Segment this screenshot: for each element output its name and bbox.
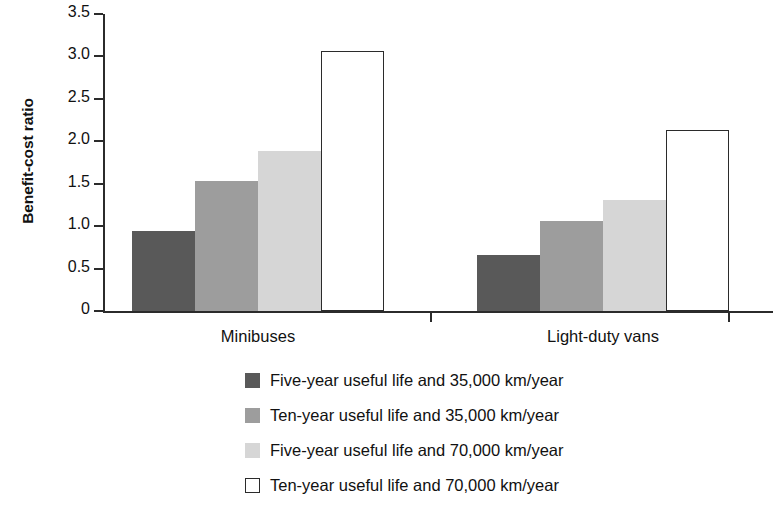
x-axis-category-label: Light-duty vans	[483, 327, 723, 346]
y-axis-tick-mark	[94, 13, 103, 15]
y-axis-tick-mark	[94, 140, 103, 142]
legend-swatch-icon	[245, 443, 260, 458]
bar	[195, 181, 258, 311]
legend-item-label: Ten-year useful life and 70,000 km/year	[270, 477, 559, 494]
chart-legend: Five-year useful life and 35,000 km/year…	[0, 363, 773, 503]
y-axis-tick-mark	[94, 268, 103, 270]
legend-item: Ten-year useful life and 70,000 km/year	[0, 468, 773, 503]
x-axis-tick-mark	[728, 311, 730, 322]
bar	[540, 221, 603, 311]
bar	[321, 51, 384, 312]
bar	[666, 130, 729, 311]
plot-area: 3.53.02.52.01.51.00.50	[103, 14, 773, 312]
legend-item-label: Five-year useful life and 70,000 km/year	[270, 442, 563, 459]
legend-item-label: Five-year useful life and 35,000 km/year	[270, 372, 563, 389]
legend-item: Ten-year useful life and 35,000 km/year	[0, 398, 773, 433]
bar	[132, 231, 195, 311]
y-axis-tick-mark	[94, 225, 103, 227]
legend-swatch-icon	[245, 373, 260, 388]
bar	[258, 151, 321, 311]
x-axis-tick-mark	[430, 311, 432, 322]
y-axis-tick-label: 3.5	[50, 3, 90, 21]
y-axis-tick-label: 1.0	[50, 215, 90, 233]
y-axis-tick-label: 0	[50, 300, 90, 318]
y-axis-tick-mark	[94, 183, 103, 185]
y-axis-tick-label: 2.0	[50, 130, 90, 148]
legend-swatch-icon	[245, 408, 260, 423]
y-axis-tick-mark	[94, 55, 103, 57]
y-axis-tick-label: 0.5	[50, 258, 90, 276]
y-axis-title: Benefit-cost ratio	[19, 51, 37, 271]
legend-item-label: Ten-year useful life and 35,000 km/year	[270, 407, 559, 424]
benefit-cost-ratio-bar-chart: Benefit-cost ratio 3.53.02.52.01.51.00.5…	[0, 0, 773, 508]
x-axis-category-label: Minibuses	[138, 327, 378, 346]
y-axis-tick-mark	[94, 98, 103, 100]
y-axis-line	[103, 14, 105, 313]
bar	[477, 255, 540, 311]
x-axis-line	[103, 311, 773, 313]
y-axis-tick-label: 3.0	[50, 45, 90, 63]
y-axis-tick-mark	[94, 310, 103, 312]
y-axis-tick-label: 2.5	[50, 88, 90, 106]
y-axis-tick-label: 1.5	[50, 173, 90, 191]
legend-swatch-icon	[245, 478, 260, 493]
legend-item: Five-year useful life and 70,000 km/year	[0, 433, 773, 468]
legend-item: Five-year useful life and 35,000 km/year	[0, 363, 773, 398]
bar	[603, 200, 666, 311]
